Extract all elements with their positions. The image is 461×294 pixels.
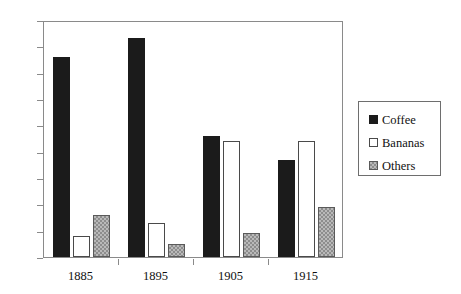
- bar-coffee-1905: [203, 136, 220, 257]
- legend-item-label: Bananas: [382, 136, 424, 150]
- bar-others-1905: [243, 233, 260, 257]
- bar-others-1915: [318, 207, 335, 257]
- plot-area: [43, 21, 343, 258]
- bar-coffee-1885: [53, 57, 70, 257]
- legend-item-label: Others: [382, 159, 415, 173]
- bar-bananas-1905: [223, 141, 240, 257]
- y-axis: 9080706050403020100: [0, 0, 43, 294]
- chart-legend: CoffeeBananasOthers: [358, 101, 441, 176]
- x-axis-tick-label: 1905: [193, 268, 268, 284]
- solid-black-swatch: [369, 115, 378, 124]
- gray-hatched-swatch: [369, 161, 378, 170]
- legend-item-label: Coffee: [382, 113, 416, 127]
- x-axis-tick-mark: [118, 259, 119, 265]
- x-axis-tick-mark: [268, 259, 269, 265]
- x-axis-tick-label: 1895: [118, 268, 193, 284]
- bar-bananas-1885: [73, 236, 90, 257]
- bar-others-1895: [168, 244, 185, 257]
- x-axis-tick-label: 1915: [268, 268, 343, 284]
- bar-bananas-1895: [148, 223, 165, 257]
- legend-item-others: Others: [369, 156, 440, 175]
- bar-coffee-1915: [278, 160, 295, 257]
- bar-others-1885: [93, 215, 110, 257]
- bar-chart: 9080706050403020100 1885189519051915 Cof…: [0, 0, 461, 294]
- white-outline-swatch: [369, 138, 378, 147]
- bar-coffee-1895: [128, 38, 145, 257]
- x-axis-tick-label: 1885: [43, 268, 118, 284]
- x-axis-tick-mark: [193, 259, 194, 265]
- legend-item-bananas: Bananas: [369, 133, 440, 152]
- bar-bananas-1915: [298, 141, 315, 257]
- legend-item-coffee: Coffee: [369, 110, 440, 129]
- x-axis: 1885189519051915: [43, 259, 344, 293]
